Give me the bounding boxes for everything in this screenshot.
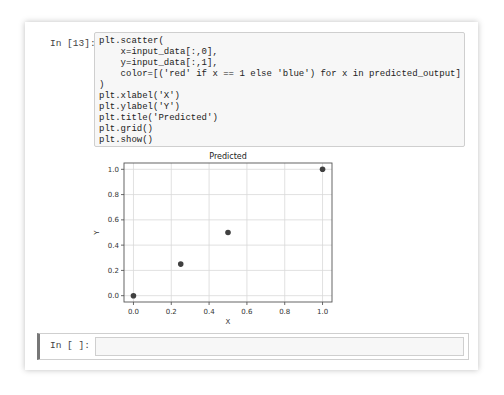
- cell-prompt: In [13]:: [50, 38, 96, 49]
- y-tick-label: 0.4: [108, 242, 120, 250]
- x-tick-label: 0.4: [204, 308, 216, 316]
- scatter-point: [131, 293, 137, 299]
- y-tick-label: 0.6: [108, 216, 120, 224]
- scatter-point: [178, 261, 184, 267]
- empty-code-cell[interactable]: In [ ]:: [37, 333, 469, 360]
- x-tick-label: 0.6: [241, 308, 253, 316]
- x-tick-label: 0.8: [279, 308, 290, 316]
- code-cell-input[interactable]: [95, 337, 464, 356]
- notebook-container: In [13]: plt.scatter( x=input_data[:,0],…: [25, 22, 478, 370]
- code-cell-input[interactable]: plt.scatter( x=input_data[:,0], y=input_…: [94, 32, 465, 147]
- scatter-plot-output: 0.00.20.40.60.81.00.00.20.40.60.81.0Pred…: [90, 148, 350, 333]
- code-text: plt.scatter( x=input_data[:,0], y=input_…: [99, 36, 461, 146]
- cell-prompt: In [ ]:: [50, 340, 90, 351]
- scatter-point: [225, 230, 231, 236]
- x-tick-label: 0.2: [166, 308, 177, 316]
- x-tick-label: 0.0: [128, 308, 139, 316]
- y-tick-label: 0.0: [108, 292, 119, 300]
- y-tick-label: 0.8: [108, 191, 119, 199]
- x-tick-label: 1.0: [317, 308, 328, 316]
- x-axis-label: X: [226, 318, 231, 326]
- y-tick-label: 0.2: [108, 267, 119, 275]
- chart-title: Predicted: [209, 152, 247, 161]
- y-tick-label: 1.0: [108, 166, 119, 174]
- scatter-point: [320, 167, 326, 173]
- y-axis-label: Y: [93, 230, 101, 236]
